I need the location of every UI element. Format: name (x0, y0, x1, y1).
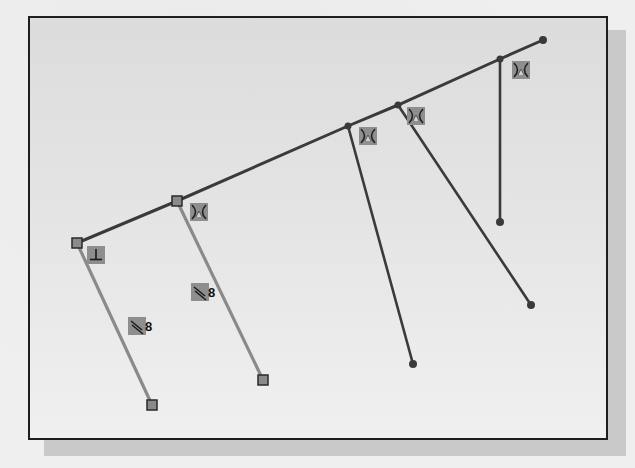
perpendicular-icon (87, 246, 105, 264)
tangent-constraint[interactable] (407, 107, 425, 125)
endpoint-dot[interactable] (409, 360, 417, 368)
branch-line-2[interactable] (177, 201, 263, 380)
endpoint-dot[interactable] (539, 36, 547, 44)
tangent-icon (359, 127, 377, 145)
parallel-constraint[interactable]: 8 (191, 283, 209, 301)
tangent-constraint[interactable] (512, 61, 530, 79)
endpoint-square[interactable] (172, 196, 182, 206)
endpoint-square[interactable] (72, 238, 82, 248)
endpoint-dot[interactable] (395, 102, 402, 109)
endpoint-dot[interactable] (345, 123, 352, 130)
parallel-icon (191, 283, 209, 301)
sketch-canvas[interactable] (28, 16, 608, 440)
sketch-viewport[interactable]: 8 8 (28, 16, 608, 440)
endpoint-dot[interactable] (527, 301, 535, 309)
parallel-constraint[interactable]: 8 (128, 317, 146, 335)
main-line[interactable] (77, 40, 543, 243)
parallel-icon (128, 317, 146, 335)
parallel-constraint-label: 8 (145, 320, 152, 333)
tangent-constraint[interactable] (190, 203, 208, 221)
endpoint-square[interactable] (147, 400, 157, 410)
endpoint-square[interactable] (258, 375, 268, 385)
tangent-icon (512, 61, 530, 79)
tangent-icon (407, 107, 425, 125)
endpoint-dot[interactable] (496, 218, 504, 226)
tangent-icon (190, 203, 208, 221)
branch-line-4[interactable] (398, 105, 531, 305)
perpendicular-constraint[interactable] (87, 246, 105, 264)
endpoint-dot[interactable] (497, 56, 504, 63)
tangent-constraint[interactable] (359, 127, 377, 145)
parallel-constraint-label: 8 (208, 286, 215, 299)
branch-line-3[interactable] (348, 126, 413, 364)
